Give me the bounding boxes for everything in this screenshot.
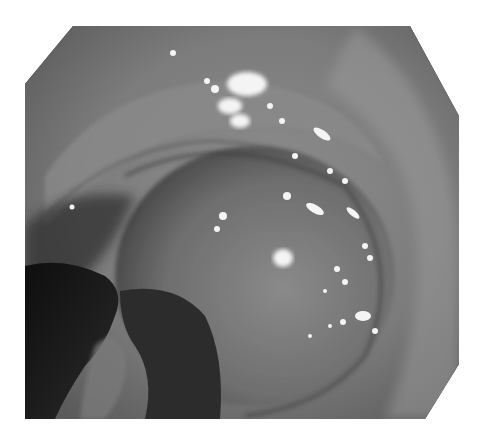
highlight (227, 72, 267, 96)
highlight (211, 85, 219, 93)
highlight (342, 178, 348, 184)
highlight (204, 78, 210, 84)
highlight (219, 212, 227, 220)
highlight (327, 168, 333, 174)
highlight (170, 50, 176, 56)
endoscopy-scene (25, 26, 459, 419)
highlight (334, 266, 340, 272)
highlight (279, 118, 285, 124)
highlight (283, 192, 291, 200)
highlight (70, 205, 75, 210)
highlight (355, 311, 371, 321)
endoscopy-photo (25, 26, 459, 419)
highlight (323, 289, 327, 293)
highlight (267, 103, 273, 109)
highlight (372, 328, 378, 334)
highlight (342, 279, 348, 285)
highlight (230, 114, 250, 128)
highlight (218, 98, 242, 114)
highlight (308, 334, 312, 338)
highlight (214, 226, 220, 232)
highlight (367, 255, 373, 261)
highlight (292, 153, 298, 159)
highlight (328, 324, 332, 328)
highlight (273, 249, 293, 267)
highlight (340, 319, 346, 325)
highlight (362, 243, 368, 249)
